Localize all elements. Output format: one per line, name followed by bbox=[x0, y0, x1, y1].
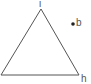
vertex-label-h: h bbox=[81, 73, 87, 84]
vertex-label-i: i bbox=[39, 0, 41, 9]
point-label-b: b bbox=[76, 17, 82, 28]
point-b-dot bbox=[71, 22, 75, 26]
triangle-diagram: i h b bbox=[0, 0, 91, 84]
triangle-shape bbox=[1, 9, 79, 75]
